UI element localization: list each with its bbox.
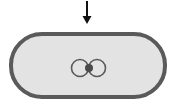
diagram-canvas [0, 0, 172, 105]
down-arrow-icon [83, 1, 92, 24]
diagram-svg [0, 0, 172, 105]
center-dot-icon [85, 64, 93, 72]
